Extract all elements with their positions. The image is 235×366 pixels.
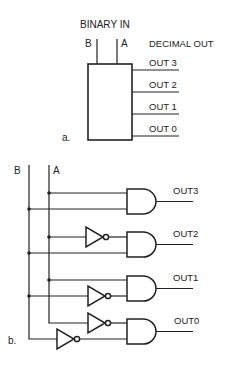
inverter-bubble [74, 336, 79, 341]
output-label-2: OUT 2 [149, 79, 177, 90]
inverter-bubble [105, 293, 110, 298]
inverter-a-out0 [88, 313, 105, 333]
bus-label-b: B [14, 165, 21, 176]
junction-dot [47, 235, 51, 239]
bus-a [49, 165, 88, 323]
inverter-b-out1 [88, 286, 105, 306]
binary-in-title: BINARY IN [80, 19, 130, 30]
inverter-a-out2 [86, 227, 103, 247]
input-label-a: A [121, 38, 128, 49]
output-label-0: OUT 0 [149, 123, 177, 134]
bus-label-a: A [53, 165, 60, 176]
decimal-out-title: DECIMAL OUT [149, 38, 214, 49]
part-a-block-diagram: BINARY IN B A DECIMAL OUT OUT 3 OUT 2 OU… [62, 19, 214, 143]
input-label-b: B [85, 38, 92, 49]
junction-dot [27, 251, 31, 255]
part-a-label: a. [62, 132, 70, 143]
output-label-out2: OUT2 [173, 228, 198, 239]
and-gate-out2 [127, 232, 156, 257]
output-label-out3: OUT3 [173, 185, 198, 196]
junction-dot [47, 191, 51, 195]
output-label-out0: OUT0 [174, 315, 199, 326]
output-label-1: OUT 1 [149, 101, 177, 112]
inverter-bubble [105, 320, 110, 325]
decoder-diagram: BINARY IN B A DECIMAL OUT OUT 3 OUT 2 OU… [0, 0, 235, 366]
and-gate-out0 [127, 319, 156, 344]
junction-dot [47, 278, 51, 282]
inverter-bubble [103, 234, 108, 239]
and-gate-out3 [127, 189, 156, 214]
output-label-out1: OUT1 [173, 272, 198, 283]
junction-dot [27, 294, 31, 298]
bus-b [29, 165, 57, 339]
decoder-block [88, 64, 132, 140]
inverter-b-out0 [57, 329, 74, 349]
part-b-gate-circuit: B A b. OUT3 OUT2 OUT1 [8, 165, 199, 349]
and-gate-out1 [127, 276, 156, 301]
output-label-3: OUT 3 [149, 57, 177, 68]
junction-dot [27, 207, 31, 211]
part-b-label: b. [8, 335, 16, 346]
